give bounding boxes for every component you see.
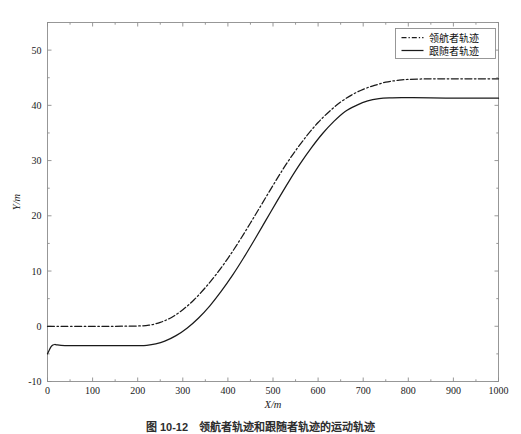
- figure-caption: 图 10-12 领航者轨迹和跟随者轨迹的运动轨迹: [0, 418, 521, 434]
- series-line-1: [48, 79, 499, 326]
- x-tick-label: 1000: [489, 385, 509, 396]
- y-tick-label: -10: [28, 376, 41, 387]
- legend-label-1: 领航者轨迹: [429, 32, 479, 44]
- x-tick-label: 200: [130, 385, 145, 396]
- axes-group: 01002003004005006007008009001000-1001020…: [28, 23, 508, 396]
- x-tick-label: 300: [175, 385, 190, 396]
- x-tick-label: 100: [85, 385, 100, 396]
- series-group: [48, 79, 499, 354]
- y-axis-title: Y/m: [11, 193, 22, 210]
- chart-legend: 领航者轨迹跟随者轨迹: [396, 29, 496, 59]
- chart-canvas: 01002003004005006007008009001000-1001020…: [0, 0, 521, 434]
- y-tick-label: 0: [37, 321, 42, 332]
- y-tick-label: 50: [32, 45, 42, 56]
- plot-area-border: [48, 23, 499, 382]
- x-tick-label: 700: [356, 385, 371, 396]
- x-tick-label: 0: [45, 385, 50, 396]
- x-axis-title: X/m: [264, 399, 282, 410]
- x-tick-label: 900: [446, 385, 461, 396]
- x-tick-label: 600: [311, 385, 326, 396]
- y-tick-label: 40: [32, 100, 42, 111]
- series-line-2: [48, 98, 499, 354]
- axis-titles-group: X/mY/m: [11, 193, 282, 409]
- figure-container: 01002003004005006007008009001000-1001020…: [0, 0, 521, 434]
- y-tick-label: 20: [32, 210, 42, 221]
- x-tick-label: 800: [401, 385, 416, 396]
- legend-label-2: 跟随者轨迹: [429, 45, 479, 57]
- x-tick-label: 500: [266, 385, 281, 396]
- y-tick-label: 10: [32, 266, 42, 277]
- y-tick-label: 30: [32, 155, 42, 166]
- x-tick-label: 400: [220, 385, 235, 396]
